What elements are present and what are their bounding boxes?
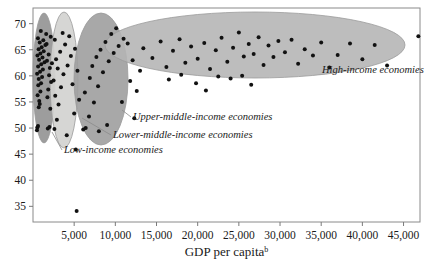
data-point [167, 78, 171, 82]
data-point [88, 76, 92, 80]
data-point [36, 36, 40, 40]
data-point [240, 74, 244, 78]
data-point [37, 58, 41, 62]
data-point [54, 57, 58, 61]
group-label-lower-middle-income-economies: Lower-middle-income economies [112, 129, 252, 140]
data-point [141, 46, 145, 50]
data-point [47, 125, 51, 129]
data-point [138, 69, 142, 73]
data-point [39, 29, 43, 33]
x-tick-label: 40,000 [347, 229, 379, 242]
data-point [42, 49, 46, 53]
data-point [38, 51, 42, 55]
data-point [57, 103, 61, 107]
data-point [128, 79, 132, 83]
data-point [164, 65, 168, 69]
data-point [46, 87, 50, 91]
data-point [49, 35, 53, 39]
y-tick-label: 55 [15, 96, 27, 108]
y-tick-label: 50 [15, 122, 27, 134]
data-point [47, 52, 51, 56]
data-point [52, 79, 56, 83]
data-point [92, 100, 96, 104]
data-point [38, 102, 42, 106]
data-point [242, 55, 246, 59]
y-tick-label: 45 [15, 148, 27, 160]
data-point [290, 38, 294, 42]
x-tick-label: 20,000 [182, 229, 214, 242]
data-point [208, 67, 212, 71]
data-point [252, 52, 256, 56]
data-point [48, 107, 52, 111]
data-point [41, 38, 45, 42]
data-point [126, 41, 130, 45]
data-point [73, 47, 77, 51]
data-point [36, 93, 40, 97]
data-point [131, 58, 135, 62]
data-point [75, 69, 79, 73]
data-point [38, 90, 42, 94]
y-tick-label: 35 [15, 200, 27, 212]
data-point [120, 100, 124, 104]
data-point [41, 68, 45, 72]
scatter-plot-svg: 35404550556065705,00010,00015,00020,0002… [0, 0, 435, 266]
data-point [90, 64, 94, 68]
data-point [37, 77, 41, 81]
data-point [99, 48, 103, 52]
data-point [311, 53, 315, 57]
data-point [179, 73, 183, 77]
data-point [53, 94, 57, 98]
data-point [183, 61, 187, 65]
data-point [117, 44, 121, 48]
y-tick-label: 70 [15, 18, 27, 30]
x-tick-label: 35,000 [305, 229, 337, 242]
x-tick-label: 10,000 [100, 229, 132, 242]
x-axis-title: GDP per capitab [185, 244, 269, 259]
data-point [69, 54, 73, 58]
data-point [59, 85, 63, 89]
data-point [40, 56, 44, 60]
data-point [257, 35, 261, 39]
data-point [39, 62, 43, 66]
data-point [77, 98, 81, 102]
data-point [225, 60, 229, 64]
data-point [67, 34, 71, 38]
x-tick-label: 15,000 [141, 229, 173, 242]
data-point [48, 66, 52, 70]
data-point [249, 83, 253, 87]
data-point [237, 31, 241, 35]
data-point [283, 50, 287, 54]
data-point [58, 50, 62, 54]
data-point [84, 126, 88, 130]
data-point [373, 43, 377, 47]
data-point [45, 95, 49, 99]
data-point [271, 55, 275, 59]
data-point [247, 42, 251, 46]
data-point [178, 37, 182, 41]
data-point [52, 127, 56, 131]
data-point [109, 32, 113, 36]
data-point [122, 37, 126, 41]
y-tick-label: 40 [15, 174, 27, 186]
x-tick-label: 5,000 [61, 229, 87, 242]
data-point [36, 124, 40, 128]
data-point [360, 57, 364, 61]
group-label-upper-middle-income-economies: Upper-middle-income economies [133, 111, 272, 122]
data-point [348, 41, 352, 45]
data-point [266, 44, 270, 48]
y-tick-label: 65 [15, 44, 27, 56]
data-point [40, 45, 44, 49]
data-point [150, 56, 154, 60]
data-point [416, 34, 420, 38]
x-tick-label: 25,000 [223, 229, 255, 242]
data-point [262, 63, 266, 67]
data-point [202, 41, 206, 45]
data-point [135, 89, 139, 93]
group-label-high-income-economies: High-income economies [321, 64, 424, 75]
data-point [97, 129, 101, 133]
x-tick-label: 45,000 [388, 229, 420, 242]
data-point [71, 82, 75, 86]
data-point [96, 84, 100, 88]
data-point [303, 47, 307, 51]
data-point [83, 91, 87, 95]
